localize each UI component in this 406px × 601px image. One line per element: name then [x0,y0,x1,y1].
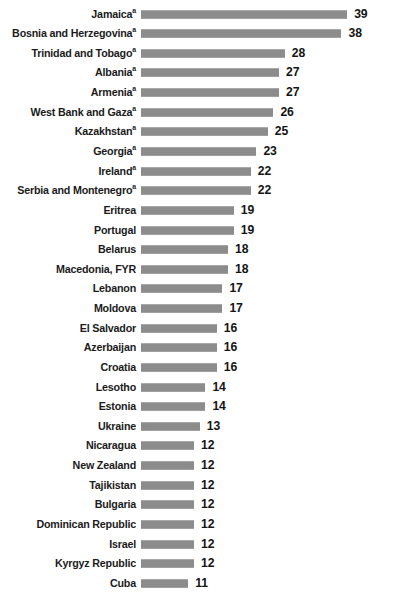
bar-row: Lesotho14 [0,378,406,398]
bar [141,226,234,235]
category-label: Trinidad and Tobagoa [8,44,136,64]
bar [141,108,273,117]
footnote-marker: a [132,45,136,54]
footnote-marker: a [132,25,136,34]
bar [141,500,194,509]
bar [141,167,251,176]
value-label: 17 [229,279,242,299]
category-label: Croatia [8,358,136,378]
bar-row: Eritrea19 [0,201,406,221]
category-label: Ukraine [8,417,136,437]
bar-row: Nicaragua12 [0,436,406,456]
bar [141,265,228,274]
value-label: 39 [354,5,367,25]
bar-row: Azerbaijan16 [0,338,406,358]
bar-row: Israel12 [0,535,406,555]
value-label: 13 [207,417,220,437]
bar [141,540,194,549]
bar [141,245,228,254]
value-label: 16 [224,358,237,378]
bar-row: Ukraine13 [0,417,406,437]
category-label: Lesotho [8,378,136,398]
bar [141,579,188,588]
value-label: 14 [212,378,225,398]
category-label: New Zealand [8,456,136,476]
bar-row: Armeniaa27 [0,83,406,103]
bar-row: Lebanon17 [0,279,406,299]
bar [141,10,347,19]
value-label: 22 [258,162,271,182]
bar [141,49,285,58]
bar [141,441,194,450]
value-label: 11 [195,574,208,594]
category-label: Bulgaria [8,495,136,515]
value-label: 18 [235,260,248,280]
category-label: Lebanon [8,279,136,299]
value-label: 12 [201,476,214,496]
category-label: Albaniaa [8,63,136,83]
footnote-marker: a [132,6,136,15]
bar [141,343,217,352]
bar-row: New Zealand12 [0,456,406,476]
bar-row: Kyrgyz Republic12 [0,554,406,574]
category-label: Kazakhstana [8,122,136,142]
bar [141,422,200,431]
value-label: 16 [224,338,237,358]
value-label: 14 [212,397,225,417]
category-label: Moldova [8,299,136,319]
bar [141,147,256,156]
bar-row: Estonia14 [0,397,406,417]
bar [141,383,205,392]
bar-row: El Salvador16 [0,319,406,339]
bar [141,206,234,215]
value-label: 26 [280,103,293,123]
bar-row: Bosnia and Herzegovinaa38 [0,24,406,44]
category-label: Macedonia, FYR [8,260,136,280]
bar [141,284,222,293]
bar [141,68,279,77]
value-label: 12 [201,535,214,555]
category-label: Cuba [8,574,136,594]
bar-row: Portugal19 [0,221,406,241]
bar [141,559,194,568]
value-label: 38 [348,24,361,44]
bar [141,29,341,38]
value-label: 17 [229,299,242,319]
bar-row: Jamaicaa39 [0,5,406,25]
value-label: 22 [258,181,271,201]
category-label: Nicaragua [8,436,136,456]
category-label: Jamaicaa [8,5,136,25]
bar-row: Bulgaria12 [0,495,406,515]
value-label: 27 [286,83,299,103]
bar [141,324,217,333]
bar [141,304,222,313]
footnote-marker: a [132,65,136,74]
category-label: Dominican Republic [8,515,136,535]
category-label: Armeniaa [8,83,136,103]
category-label: Serbia and Montenegroa [8,181,136,201]
footnote-marker: a [132,104,136,113]
category-label: Bosnia and Herzegovinaa [8,24,136,44]
value-label: 27 [286,63,299,83]
bar-row: Cuba11 [0,574,406,594]
category-label: Irelanda [8,162,136,182]
value-label: 25 [275,122,288,142]
value-label: 12 [201,515,214,535]
value-label: 12 [201,436,214,456]
bar [141,461,194,470]
bar-row: West Bank and Gazaa26 [0,103,406,123]
horizontal-bar-chart: Jamaicaa39Bosnia and Herzegovinaa38Trini… [0,0,406,601]
value-label: 16 [224,319,237,339]
value-label: 19 [241,201,254,221]
value-label: 19 [241,221,254,241]
footnote-marker: a [132,143,136,152]
value-label: 23 [263,142,276,162]
value-label: 12 [201,495,214,515]
bar-row: Serbia and Montenegroa22 [0,181,406,201]
bar-row: Moldova17 [0,299,406,319]
bar-row: Kazakhstana25 [0,122,406,142]
category-label: Eritrea [8,201,136,221]
value-label: 12 [201,554,214,574]
bar-row: Albaniaa27 [0,63,406,83]
bar [141,520,194,529]
